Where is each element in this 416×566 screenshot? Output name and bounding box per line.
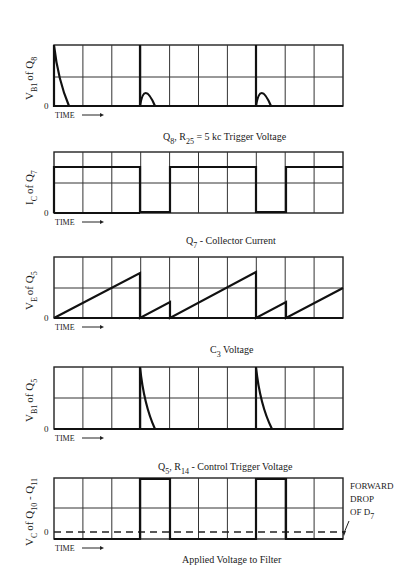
panel-caption: Q8, R25 = 5 kc Trigger Voltage xyxy=(163,131,287,146)
panel-vc-q10-q11: VCof Q10 - Q11 0 TIME Applied Voltage to… xyxy=(23,478,394,565)
panel-vb1-q5: VB1of Q5 0 TIME Q5, R14 - Control Trigge… xyxy=(23,367,343,476)
arrow-right-icon xyxy=(100,220,104,224)
zero-label: 0 xyxy=(44,313,49,323)
svg-text:TIME: TIME xyxy=(55,434,75,443)
zero-label: 0 xyxy=(44,424,49,434)
y-axis-label: VB1of Q8 xyxy=(23,57,39,100)
arrow-right-icon xyxy=(100,546,104,550)
zero-label: 0 xyxy=(44,101,49,111)
svg-text:TIME: TIME xyxy=(55,218,75,227)
waveform-diagram: VB1of Q8 0 TIME Q8, R25 = 5 kc Trigger V… xyxy=(0,0,416,566)
panel-caption: Q5, R14 - Control Trigger Voltage xyxy=(158,461,293,476)
arrow-right-icon xyxy=(100,325,104,329)
svg-text:FORWARD: FORWARD xyxy=(350,481,394,491)
svg-text:DROP: DROP xyxy=(350,494,374,504)
panel-grid xyxy=(54,257,343,318)
panel-caption: Applied Voltage to Filter xyxy=(182,554,282,565)
panel-ve-q5: VEof Q5 0 TIME C3 Voltage xyxy=(23,257,343,359)
svg-text:TIME: TIME xyxy=(55,544,75,553)
time-axis-label: TIME xyxy=(55,544,104,553)
panel-grid xyxy=(54,478,343,539)
panel-vb1-q8: VB1of Q8 0 TIME Q8, R25 = 5 kc Trigger V… xyxy=(23,45,343,146)
time-axis-label: TIME xyxy=(55,434,104,443)
svg-text:TIME: TIME xyxy=(55,323,75,332)
y-axis-label: ICof Q7 xyxy=(23,170,39,205)
panel-caption: Q7 - Collector Current xyxy=(186,235,276,250)
panel-caption: C3 Voltage xyxy=(210,344,254,359)
panel-grid xyxy=(54,367,343,429)
forward-drop-annotation: FORWARD DROP OF D7 xyxy=(342,481,394,536)
arrow-right-icon xyxy=(100,113,104,117)
zero-label: 0 xyxy=(44,527,49,537)
time-axis-label: TIME xyxy=(55,111,104,120)
y-axis-label: VB1of Q5 xyxy=(23,379,39,422)
panel-grid xyxy=(54,152,343,213)
panel-grid xyxy=(54,45,343,106)
time-axis-label: TIME xyxy=(55,218,104,227)
time-axis-label: TIME xyxy=(55,323,104,332)
svg-text:TIME: TIME xyxy=(55,111,75,120)
y-axis-label: VEof Q5 xyxy=(23,271,39,310)
svg-text:OF D7: OF D7 xyxy=(350,507,374,521)
arrow-right-icon xyxy=(100,436,104,440)
y-axis-label: VCof Q10 - Q11 xyxy=(23,478,39,546)
zero-label: 0 xyxy=(44,208,49,218)
panel-ic-q7: ICof Q7 0 TIME Q7 - Collector Current xyxy=(23,152,343,250)
